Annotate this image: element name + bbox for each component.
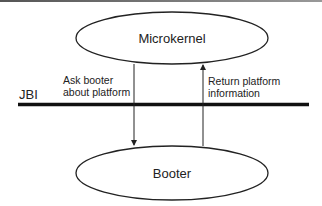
jbi-boundary: JBI	[18, 87, 309, 105]
ask-booter-label-line2: about platform	[63, 86, 130, 98]
ask-booter-label-line1: Ask booter	[63, 74, 114, 86]
diagram-canvas: Microkernel Booter JBI Ask booter about …	[0, 0, 322, 206]
jbi-label: JBI	[19, 87, 38, 102]
microkernel-node: Microkernel	[76, 12, 268, 64]
microkernel-label: Microkernel	[138, 31, 205, 46]
booter-node: Booter	[76, 146, 268, 200]
booter-label: Booter	[153, 166, 192, 181]
return-platform-label-line2: information	[208, 87, 260, 99]
return-platform-label-line1: Return platform	[208, 75, 281, 87]
